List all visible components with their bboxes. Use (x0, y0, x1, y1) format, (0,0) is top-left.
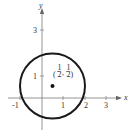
x-tick-label: -1 (12, 101, 19, 110)
y-tick-label: 3 (33, 26, 37, 35)
tick-labels: -1 1 2 3 1 3 x y (12, 1, 128, 110)
circle-diagram: -1 1 2 3 1 3 x y ( 1 2 , 1 2 ) (0, 0, 138, 132)
y-axis-label: y (38, 1, 43, 10)
paren-open: ( (53, 70, 56, 79)
paren-close: ) (71, 70, 74, 79)
center-point (51, 84, 55, 88)
comma: , (62, 68, 64, 77)
x-axis-arrow-icon (116, 96, 122, 100)
x-axis-label: x (123, 93, 128, 102)
x-tick-label: 1 (61, 101, 65, 110)
x-tick-label: 2 (84, 101, 88, 110)
x-tick-label: 3 (104, 101, 108, 110)
x-denominator: 2 (58, 70, 62, 79)
y-tick-label: 1 (33, 72, 37, 81)
center-point-label: ( 1 2 , 1 2 ) (53, 63, 74, 79)
